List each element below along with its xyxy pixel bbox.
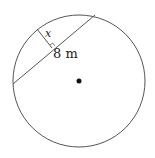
distance-label-x: x (45, 27, 52, 40)
circle-chord-diagram: x 8 m (0, 0, 155, 158)
chord-length-label: 8 m (53, 46, 78, 61)
center-point (77, 79, 82, 84)
